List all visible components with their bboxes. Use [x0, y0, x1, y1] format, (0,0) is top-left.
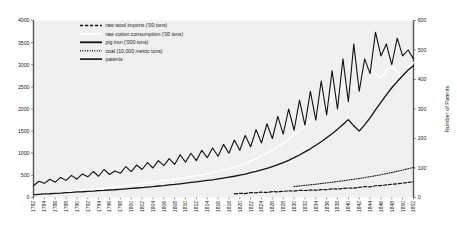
x-axis-tick-label: 1782 — [30, 201, 36, 212]
y-axis-left-tick-label: 1000 — [18, 150, 30, 156]
y-axis-left-tick-label: 3000 — [18, 62, 30, 68]
y-axis-right-tick-label: 400 — [418, 76, 427, 82]
x-axis-tick-label: 1830 — [291, 201, 297, 212]
y-axis-right-tick-label: 300 — [418, 106, 427, 112]
y-axis-left-tick-label: 3500 — [18, 40, 30, 46]
y-axis-right-tick-label: 200 — [418, 135, 427, 141]
y-axis-right-tick-label: 0 — [418, 194, 421, 200]
x-axis-tick-label: 1816 — [215, 201, 221, 212]
x-axis-tick-label: 1838 — [334, 201, 340, 212]
x-axis-tick-label: 1794 — [96, 201, 102, 212]
y-axis-right-tick-label: 500 — [418, 47, 427, 53]
legend-label-3: coal (10,000 metric tons) — [106, 48, 163, 54]
legend-label-0: raw wool imports ('00 tons) — [106, 22, 168, 28]
y-axis-left-tick-label: 4000 — [18, 17, 30, 23]
x-axis-tick-label: 1818 — [226, 201, 232, 212]
y-axis-left-tick-label: 2000 — [18, 106, 30, 112]
x-axis-tick-label: 1792 — [85, 201, 91, 212]
x-axis-tick-label: 1846 — [378, 201, 384, 212]
x-axis-tick-label: 1804 — [150, 201, 156, 212]
y-axis-right-tick-label: 100 — [418, 165, 427, 171]
x-axis-tick-label: 1814 — [204, 201, 210, 212]
legend-label-2: pig iron ('000 tons) — [106, 39, 149, 45]
x-axis-tick-label: 1802 — [139, 201, 145, 212]
x-axis-tick-label: 1840 — [345, 201, 351, 212]
y-axis-left-tick-label: 500 — [21, 172, 30, 178]
x-axis-tick-label: 1806 — [161, 201, 167, 212]
x-axis-tick-label: 1844 — [367, 201, 373, 212]
chart-svg: 05001000150020002500300035004000 0100200… — [0, 0, 457, 232]
x-axis-tick-label: 1842 — [356, 201, 362, 212]
x-axis-tick-label: 1832 — [302, 201, 308, 212]
legend-label-1: raw cotton consumption ('00 tons) — [106, 31, 184, 37]
x-axis-tick-label: 1796 — [106, 201, 112, 212]
x-axis-tick-label: 1786 — [52, 201, 58, 212]
x-axis-tick-label: 1788 — [63, 201, 69, 212]
y-axis-left-tick-label: 2500 — [18, 84, 30, 90]
x-axis-tick-label: 1784 — [41, 201, 47, 212]
x-axis-tick-label: 1808 — [172, 201, 178, 212]
x-axis-tick-label: 1848 — [389, 201, 395, 212]
x-axis-tick-label: 1826 — [269, 201, 275, 212]
x-axis-tick-label: 1836 — [324, 201, 330, 212]
x-axis-tick-label: 1822 — [248, 201, 254, 212]
x-axis-tick-label: 1828 — [280, 201, 286, 212]
x-axis-tick-label: 1824 — [258, 201, 264, 212]
x-axis-tick-label: 1798 — [117, 201, 123, 212]
y-axis-left-tick-label: 1500 — [18, 128, 30, 134]
x-axis-tick-label: 1810 — [182, 201, 188, 212]
legend-label-4: patents — [106, 56, 123, 62]
x-axis-tick-label: 1834 — [313, 201, 319, 212]
y-axis-left-tick-label: 0 — [27, 194, 30, 200]
x-axis-tick-label: 1790 — [74, 201, 80, 212]
x-axis-tick-label: 1812 — [193, 201, 199, 212]
plot-area-background — [34, 21, 414, 198]
x-axis-tick-label: 1820 — [237, 201, 243, 212]
x-axis-tick-label: 1850 — [400, 201, 406, 212]
x-axis-tick-label: 1800 — [128, 201, 134, 212]
y-axis-right-title: Number of Patents — [444, 85, 450, 132]
y-axis-right-tick-label: 600 — [418, 17, 427, 23]
x-axis-tick-label: 1852 — [410, 201, 416, 212]
chart-container: 05001000150020002500300035004000 0100200… — [0, 0, 457, 232]
